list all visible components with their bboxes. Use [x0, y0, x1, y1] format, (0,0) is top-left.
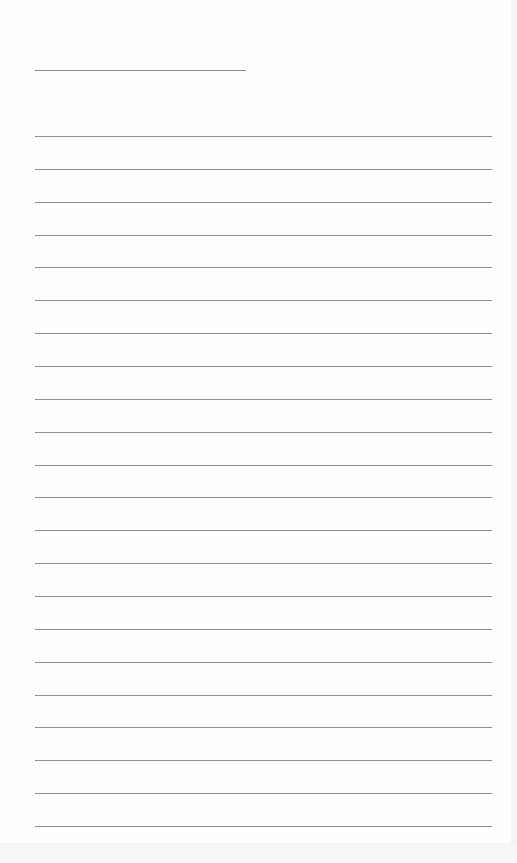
ruled-line: [35, 333, 492, 334]
page-edge-shadow: [511, 0, 517, 863]
ruled-line: [35, 826, 492, 827]
ruled-line: [35, 497, 492, 498]
ruled-line: [35, 267, 492, 268]
ruled-line: [35, 235, 492, 236]
ruled-line: [35, 202, 492, 203]
title-line: [35, 70, 246, 71]
ruled-line: [35, 596, 492, 597]
ruled-line: [35, 695, 492, 696]
page-bottom-shadow: [0, 843, 517, 863]
ruled-line: [35, 169, 492, 170]
ruled-line: [35, 629, 492, 630]
ruled-line: [35, 760, 492, 761]
ruled-line: [35, 563, 492, 564]
ruled-line: [35, 399, 492, 400]
ruled-line: [35, 300, 492, 301]
ruled-line: [35, 530, 492, 531]
ruled-line: [35, 727, 492, 728]
lined-paper-page: [0, 0, 517, 863]
ruled-line: [35, 662, 492, 663]
ruled-line: [35, 465, 492, 466]
ruled-line: [35, 366, 492, 367]
ruled-line: [35, 432, 492, 433]
ruled-line: [35, 136, 492, 137]
ruled-line: [35, 793, 492, 794]
